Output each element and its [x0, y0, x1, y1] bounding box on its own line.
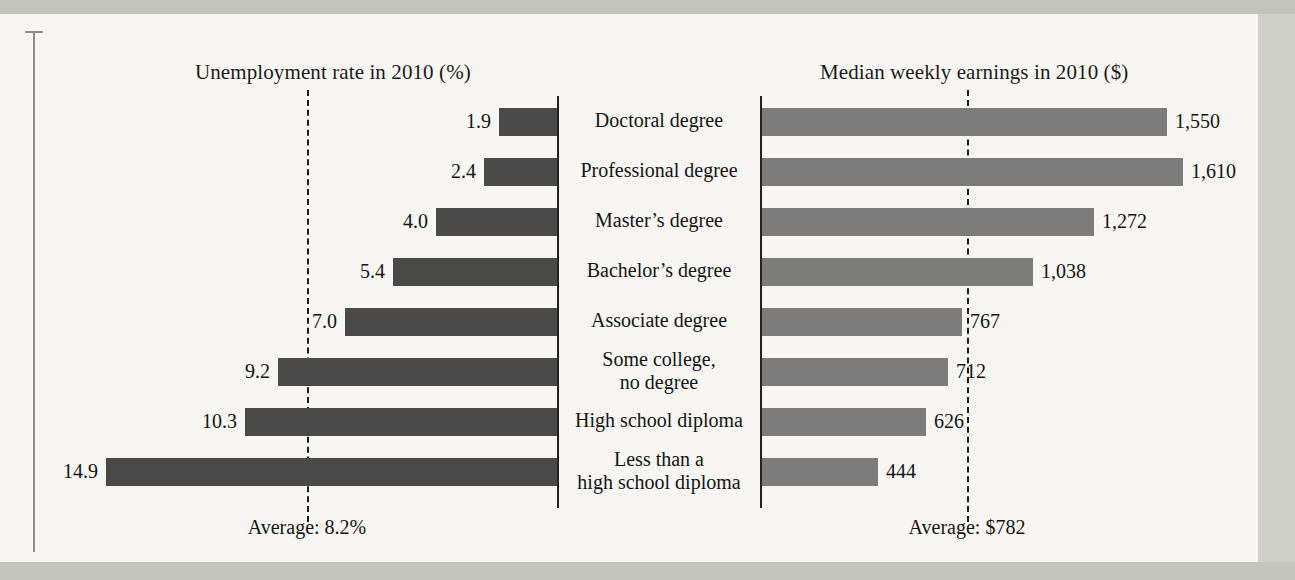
- earnings-value-label: 1,272: [1102, 207, 1147, 235]
- unemployment-value-label: 5.4: [360, 257, 385, 285]
- earnings-value-label: 767: [970, 307, 1000, 335]
- earnings-bar: [762, 358, 948, 386]
- earnings-bar: [762, 208, 1094, 236]
- category-label: High school diploma: [559, 409, 759, 432]
- category-label-line: Associate degree: [559, 309, 759, 332]
- chart-row: 5.41,038Bachelor’s degree: [0, 247, 1295, 297]
- unemployment-value-label: 4.0: [403, 207, 428, 235]
- chart-row: 4.01,272Master’s degree: [0, 197, 1295, 247]
- category-label: Some college,no degree: [559, 348, 759, 394]
- unemployment-value-label: 2.4: [451, 157, 476, 185]
- category-label: Less than ahigh school diploma: [559, 448, 759, 494]
- unemployment-value-label: 7.0: [312, 307, 337, 335]
- earnings-bar: [762, 158, 1183, 186]
- earnings-value-label: 1,038: [1041, 257, 1086, 285]
- category-label-line: Professional degree: [559, 159, 759, 182]
- page-left-rule-tick: [25, 31, 43, 33]
- earnings-value-label: 1,550: [1175, 107, 1220, 135]
- chart-row: 14.9444Less than ahigh school diploma: [0, 447, 1295, 497]
- chart-row: 7.0767Associate degree: [0, 297, 1295, 347]
- category-label-line: high school diploma: [559, 471, 759, 494]
- unemployment-bar: [436, 208, 557, 236]
- figure-page: Unemployment rate in 2010 (%) Median wee…: [0, 0, 1295, 580]
- category-label: Doctoral degree: [559, 109, 759, 132]
- category-label: Master’s degree: [559, 209, 759, 232]
- category-label-line: Master’s degree: [559, 209, 759, 232]
- category-label-line: Doctoral degree: [559, 109, 759, 132]
- unemployment-value-label: 14.9: [63, 457, 98, 485]
- unemployment-bar: [245, 408, 557, 436]
- category-label-line: Some college,: [559, 348, 759, 371]
- category-label-line: no degree: [559, 371, 759, 394]
- left-panel-title: Unemployment rate in 2010 (%): [195, 60, 471, 85]
- earnings-bar: [762, 258, 1033, 286]
- earnings-value-label: 626: [934, 407, 964, 435]
- left-average-label: Average: 8.2%: [248, 516, 366, 539]
- chart-row: 1.91,550Doctoral degree: [0, 97, 1295, 147]
- earnings-value-label: 712: [956, 357, 986, 385]
- chart-row: 9.2712Some college,no degree: [0, 347, 1295, 397]
- right-panel-title: Median weekly earnings in 2010 ($): [820, 60, 1128, 85]
- earnings-bar: [762, 458, 878, 486]
- unemployment-bar: [484, 158, 557, 186]
- category-label-line: Bachelor’s degree: [559, 259, 759, 282]
- chart-row: 2.41,610Professional degree: [0, 147, 1295, 197]
- earnings-bar: [762, 308, 962, 336]
- unemployment-value-label: 10.3: [202, 407, 237, 435]
- unemployment-bar: [278, 358, 557, 386]
- category-label: Bachelor’s degree: [559, 259, 759, 282]
- unemployment-bar: [393, 258, 557, 286]
- earnings-bar: [762, 108, 1167, 136]
- chart-row: 10.3626High school diploma: [0, 397, 1295, 447]
- unemployment-value-label: 1.9: [466, 107, 491, 135]
- category-label-line: High school diploma: [559, 409, 759, 432]
- unemployment-value-label: 9.2: [245, 357, 270, 385]
- earnings-value-label: 1,610: [1191, 157, 1236, 185]
- page-bottom-margin: [0, 562, 1295, 580]
- unemployment-bar: [106, 458, 557, 486]
- unemployment-bar: [499, 108, 557, 136]
- category-label: Professional degree: [559, 159, 759, 182]
- unemployment-bar: [345, 308, 557, 336]
- earnings-bar: [762, 408, 926, 436]
- earnings-value-label: 444: [886, 457, 916, 485]
- category-label: Associate degree: [559, 309, 759, 332]
- category-label-line: Less than a: [559, 448, 759, 471]
- right-average-label: Average: $782: [909, 516, 1026, 539]
